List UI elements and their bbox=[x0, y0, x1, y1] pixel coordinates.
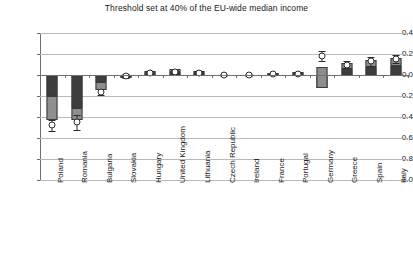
x-axis-tick-label: France bbox=[277, 158, 286, 183]
x-axis-line bbox=[40, 75, 409, 76]
bar-segment-light bbox=[317, 67, 328, 88]
x-axis-tick-label: Spain bbox=[375, 163, 384, 183]
x-axis-tick-mark bbox=[89, 75, 90, 78]
data-point-marker[interactable] bbox=[319, 53, 326, 60]
data-point-marker[interactable] bbox=[270, 70, 277, 77]
data-point-marker[interactable] bbox=[343, 61, 350, 68]
x-axis-tick-label: Romania bbox=[80, 151, 89, 183]
x-axis-tick-mark bbox=[285, 75, 286, 78]
x-axis-tick-mark bbox=[408, 75, 409, 78]
data-point-marker[interactable] bbox=[368, 58, 375, 65]
bar-segment-dark bbox=[47, 75, 58, 96]
x-axis-tick-label: Slovakia bbox=[129, 153, 138, 183]
x-axis-tick-label: Germany bbox=[326, 150, 335, 183]
x-axis-tick-mark bbox=[383, 75, 384, 78]
x-axis-tick-label: Hungary bbox=[154, 153, 163, 183]
bar-segment-dark bbox=[71, 75, 82, 108]
x-axis-tick-mark bbox=[334, 75, 335, 78]
x-axis-tick-label: Greece bbox=[350, 157, 359, 183]
x-axis-tick-mark bbox=[138, 75, 139, 78]
x-axis-tick-mark bbox=[236, 75, 237, 78]
x-axis-tick-mark bbox=[163, 75, 164, 78]
x-axis-tick-label: Czech Republic bbox=[228, 127, 237, 183]
error-bar-cap bbox=[73, 115, 80, 116]
error-bar-cap bbox=[49, 131, 56, 132]
error-bar-cap bbox=[368, 66, 375, 67]
x-axis-tick-mark bbox=[114, 75, 115, 78]
x-axis-tick-label: Italy bbox=[399, 168, 408, 183]
data-point-marker[interactable] bbox=[73, 119, 80, 126]
x-axis-tick-label: Lithuania bbox=[203, 151, 212, 183]
data-point-marker[interactable] bbox=[294, 70, 301, 77]
bar-segment-light bbox=[47, 96, 58, 120]
x-axis-tick-mark bbox=[359, 75, 360, 78]
data-point-marker[interactable] bbox=[98, 88, 105, 95]
data-point-marker[interactable] bbox=[392, 56, 399, 63]
x-axis-tick-mark bbox=[65, 75, 66, 78]
x-axis-tick-label: Poland bbox=[56, 158, 65, 183]
x-axis-tick-label: Ireland bbox=[252, 159, 261, 183]
data-point-marker[interactable] bbox=[49, 122, 56, 129]
bar-segment-dark bbox=[96, 75, 107, 82]
chart-container: Threshold set at 40% of the EU-wide medi… bbox=[0, 0, 413, 260]
x-axis-tick-mark bbox=[310, 75, 311, 78]
chart-title: Threshold set at 40% of the EU-wide medi… bbox=[0, 3, 413, 13]
bar-segment-dark bbox=[390, 66, 401, 75]
error-bar-cap bbox=[319, 61, 326, 62]
bar-segment-dark bbox=[366, 67, 377, 75]
x-axis-tick-mark bbox=[212, 75, 213, 78]
x-axis-tick-mark bbox=[261, 75, 262, 78]
x-axis-tick-label: Bulgaria bbox=[105, 154, 114, 183]
bar-group[interactable] bbox=[359, 33, 384, 180]
error-bar-cap bbox=[73, 130, 80, 131]
x-axis-tick-mark bbox=[40, 75, 41, 78]
x-axis-tick-label: Portugal bbox=[301, 153, 310, 183]
bar-group[interactable] bbox=[383, 33, 408, 180]
error-bar-cap bbox=[392, 63, 399, 64]
x-axis-tick-mark bbox=[187, 75, 188, 78]
data-point-marker[interactable] bbox=[122, 73, 129, 80]
x-axis-tick-label: United Kingdom bbox=[178, 126, 187, 183]
